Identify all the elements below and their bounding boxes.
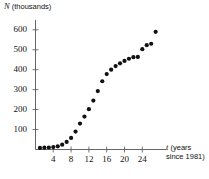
data-point — [140, 47, 144, 51]
x-tick-label-16: 16 — [99, 154, 115, 164]
data-point — [51, 145, 55, 149]
data-point — [118, 61, 122, 65]
tick-marks — [33, 30, 143, 153]
y-tick-label-100: 100 — [5, 124, 27, 134]
plot-canvas — [0, 0, 209, 179]
y-tick-label-500: 500 — [5, 44, 27, 54]
y-tick-label-400: 400 — [5, 64, 27, 74]
axes — [36, 20, 167, 150]
data-points — [38, 30, 158, 150]
data-point — [91, 99, 95, 103]
data-point — [127, 57, 131, 61]
data-point — [96, 89, 100, 93]
data-point — [87, 107, 91, 111]
data-point — [69, 136, 73, 140]
data-point — [38, 146, 42, 150]
x-tick-label-12: 12 — [81, 154, 97, 164]
x-tick-label-24: 24 — [134, 154, 150, 164]
data-point — [105, 72, 109, 76]
data-point — [145, 43, 149, 47]
scatter-plot-figure: N (thousands) t (yearssince 1981) 100200… — [0, 0, 209, 179]
data-point — [82, 114, 86, 118]
data-point — [56, 144, 60, 148]
data-point — [109, 68, 113, 72]
data-point — [122, 59, 126, 63]
data-point — [60, 143, 64, 147]
data-point — [114, 64, 118, 68]
data-point — [100, 79, 104, 83]
data-point — [136, 55, 140, 59]
data-point — [73, 129, 77, 133]
data-point — [78, 121, 82, 125]
data-point — [154, 30, 158, 34]
data-point — [47, 145, 51, 149]
data-point — [65, 140, 69, 144]
data-point — [149, 42, 153, 46]
x-tick-label-4: 4 — [45, 154, 61, 164]
y-tick-label-200: 200 — [5, 104, 27, 114]
y-tick-label-300: 300 — [5, 84, 27, 94]
x-tick-label-20: 20 — [117, 154, 133, 164]
y-tick-label-600: 600 — [5, 24, 27, 34]
x-tick-label-8: 8 — [63, 154, 79, 164]
data-point — [42, 146, 46, 150]
data-point — [131, 55, 135, 59]
